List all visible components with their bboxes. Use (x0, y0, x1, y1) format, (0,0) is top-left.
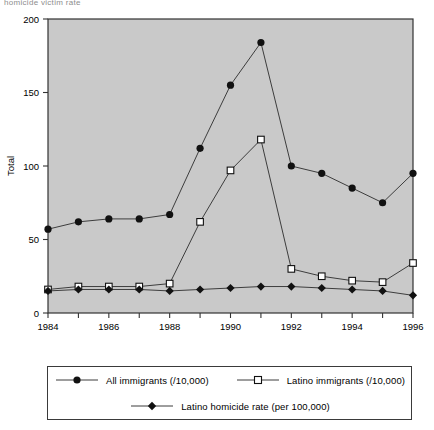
legend-row-1: All immigrants (/10,000) Latino immigran… (48, 367, 411, 393)
open-square-icon (235, 374, 281, 386)
svg-text:Total: Total (5, 156, 16, 176)
y-tick-labels: 050100150200 (23, 14, 39, 319)
plot-area: 050100150200 198419861988199019921994199… (0, 0, 434, 340)
legend-label-latino-homicide-rate: Latino homicide rate (per 100,000) (181, 401, 330, 412)
filled-diamond-icon (129, 400, 175, 412)
svg-text:1994: 1994 (342, 321, 363, 332)
chart-figure: homicide victim rate 050100150200 198419… (0, 0, 434, 430)
svg-text:1996: 1996 (402, 321, 423, 332)
legend-item-all-immigrants[interactable]: All immigrants (/10,000) (54, 374, 209, 386)
chart-legend: All immigrants (/10,000) Latino immigran… (47, 366, 412, 420)
svg-text:100: 100 (23, 161, 39, 172)
x-tick-labels: 1984198619881990199219941996 (37, 321, 423, 332)
legend-item-latino-homicide-rate[interactable]: Latino homicide rate (per 100,000) (129, 400, 330, 412)
svg-text:1990: 1990 (220, 321, 241, 332)
svg-text:1986: 1986 (98, 321, 119, 332)
legend-label-latino-immigrants: Latino immigrants (/10,000) (287, 375, 405, 386)
filled-circle-icon (54, 374, 100, 386)
svg-text:0: 0 (34, 308, 39, 319)
svg-text:150: 150 (23, 87, 39, 98)
svg-text:1984: 1984 (37, 321, 58, 332)
legend-item-latino-immigrants[interactable]: Latino immigrants (/10,000) (235, 374, 405, 386)
svg-text:1988: 1988 (159, 321, 180, 332)
svg-text:1992: 1992 (281, 321, 302, 332)
plot-background (48, 19, 413, 313)
line-chart-svg: 050100150200 198419861988199019921994199… (0, 0, 434, 340)
svg-text:50: 50 (28, 234, 39, 245)
legend-label-all-immigrants: All immigrants (/10,000) (106, 375, 209, 386)
svg-text:200: 200 (23, 14, 39, 25)
legend-row-2: Latino homicide rate (per 100,000) (48, 393, 411, 419)
